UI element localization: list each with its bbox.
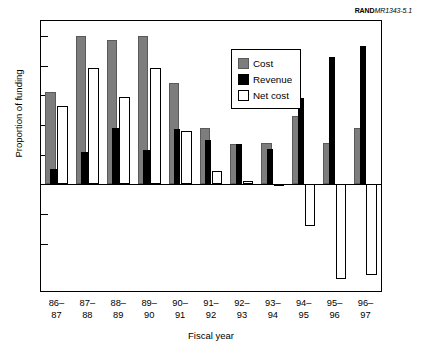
legend-item-label: Revenue [253,74,292,85]
x-axis-tick-label: 95–96 [319,298,350,321]
x-axis-tick-labels: 86–8787–8888–8989–9090–9191–9292–9393–94… [41,298,381,328]
bar-revenue [329,57,335,185]
legend-item-label: Net cost [253,90,289,101]
bar-revenue [267,149,273,185]
x-axis-tick-label-line: 91 [165,310,196,322]
x-axis-tick-label-line: 95 [288,310,319,322]
x-axis-tick-label-line: 89 [103,310,134,322]
x-axis-tick-label-line: 89– [134,298,165,310]
x-axis-tick-label-line: 88– [103,298,134,310]
x-axis-tick-label-line: 95– [319,298,350,310]
y-axis-tick [41,214,48,215]
figure-credit: RANDMR1343-5.1 [355,6,412,15]
x-axis-tick-label: 93–94 [257,298,288,321]
x-axis-tick-label-line: 86– [41,298,72,310]
bar-net [57,106,68,185]
black-square-icon [238,74,249,85]
figure: RANDMR1343-5.1 Proportion of funding 86–… [0,0,422,354]
gray-square-icon [238,58,249,69]
y-axis-title: Proportion of funding [13,34,24,194]
y-axis-tick [41,36,48,37]
x-axis-tick-label-line: 92– [226,298,257,310]
bar-revenue [81,152,87,185]
bar-revenue [298,98,304,184]
x-axis-tick-label: 86–87 [41,298,72,321]
bar-net [243,181,254,184]
y-axis-tick [41,66,48,67]
x-axis-tick-label-line: 90– [165,298,196,310]
x-axis-tick-label-line: 94 [257,310,288,322]
x-axis-tick-label: 88–89 [103,298,134,321]
x-axis-tick-label-line: 92 [196,310,227,322]
bar-revenue [50,169,56,184]
x-axis-tick-label: 87–88 [72,298,103,321]
zero-baseline [41,184,381,185]
legend-item: Revenue [238,71,292,87]
bar-net [274,184,285,186]
x-axis-tick-label-line: 87– [72,298,103,310]
bar-revenue [236,144,242,184]
x-axis-tick-label-line: 96– [350,298,381,310]
x-axis-tick-label-line: 93– [257,298,288,310]
x-axis-tick-label-line: 97 [350,310,381,322]
x-axis-title: Fiscal year [41,330,381,341]
x-axis-tick-label-line: 87 [41,310,72,322]
bar-revenue [174,129,180,184]
bar-net [305,184,316,226]
plot-area [41,21,381,291]
x-axis-tick-label-line: 88 [72,310,103,322]
x-axis-tick-label: 89–90 [134,298,165,321]
legend-item-label: Cost [253,58,273,69]
document-id-label: MR1343-5.1 [374,7,412,14]
bar-net [181,131,192,184]
bar-net [212,171,223,184]
publisher-label: RAND [355,7,375,14]
white-square-icon [238,90,249,101]
x-axis-tick-label-line: 90 [134,310,165,322]
bar-net [150,68,161,184]
y-axis-tick [41,244,48,245]
legend-item: Net cost [238,87,292,103]
bar-revenue [112,128,118,184]
x-axis-tick-label-line: 91– [196,298,227,310]
bar-net [88,68,99,184]
chart-legend: CostRevenueNet cost [231,49,301,109]
bar-revenue [205,140,211,185]
bar-revenue [143,150,149,184]
x-axis-tick-label-line: 93 [226,310,257,322]
x-axis-tick-label: 94–95 [288,298,319,321]
x-axis-tick-label: 96–97 [350,298,381,321]
bar-net [336,184,347,279]
x-axis-tick-label-line: 96 [319,310,350,322]
x-axis-tick-label: 92–93 [226,298,257,321]
x-axis-tick-label: 90–91 [165,298,196,321]
legend-item: Cost [238,55,292,71]
bar-net [119,97,130,185]
bar-revenue [360,46,366,184]
bar-net [366,184,377,274]
x-axis-tick-label: 91–92 [196,298,227,321]
x-axis-tick-label-line: 94– [288,298,319,310]
